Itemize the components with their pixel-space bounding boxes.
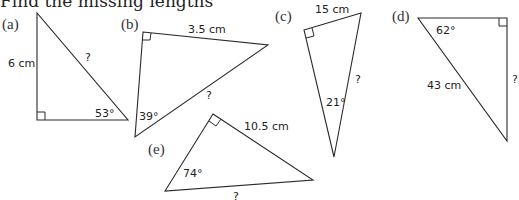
side-label-a-unknown: ? [85, 51, 91, 64]
triangle-d: (d) 62° 43 cm ? [392, 8, 518, 141]
part-label-c: (c) [275, 8, 292, 25]
angle-label-b: 39° [139, 110, 159, 123]
side-label-e-known: 10.5 cm [244, 120, 289, 133]
right-angle-marker-e [209, 119, 221, 126]
angle-label-d: 62° [436, 24, 456, 37]
side-label-a-known: 6 cm [8, 57, 35, 70]
angle-label-c: 21° [326, 96, 346, 109]
right-angle-marker-d [499, 18, 507, 26]
triangle-e: (e) 10.5 cm 74° ? [148, 114, 313, 200]
part-label-a: (a) [2, 16, 19, 33]
side-label-e-unknown: ? [233, 190, 239, 200]
triangles-figure: (a) 6 cm ? 53° (b) 3.5 cm ? 39° (c) 15 c… [0, 0, 519, 200]
part-label-b: (b) [121, 16, 139, 33]
side-label-c-known: 15 cm [315, 3, 349, 16]
part-label-d: (d) [392, 8, 410, 25]
triangle-a: (a) 6 cm ? 53° [2, 13, 128, 120]
right-angle-marker-a [37, 112, 45, 120]
triangle-b: (b) 3.5 cm ? 39° [121, 16, 268, 137]
side-label-d-unknown: ? [512, 73, 518, 86]
triangle-a-shape [37, 13, 128, 120]
side-label-b-known: 3.5 cm [188, 23, 226, 36]
angle-label-e: 74° [183, 167, 203, 180]
triangle-c: (c) 15 cm ? 21° [275, 3, 361, 157]
side-label-c-unknown: ? [355, 73, 361, 86]
side-label-d-known: 43 cm [427, 79, 461, 92]
triangle-c-shape [304, 13, 361, 157]
angle-label-a: 53° [95, 107, 115, 120]
part-label-e: (e) [148, 141, 165, 158]
side-label-b-unknown: ? [206, 89, 212, 102]
